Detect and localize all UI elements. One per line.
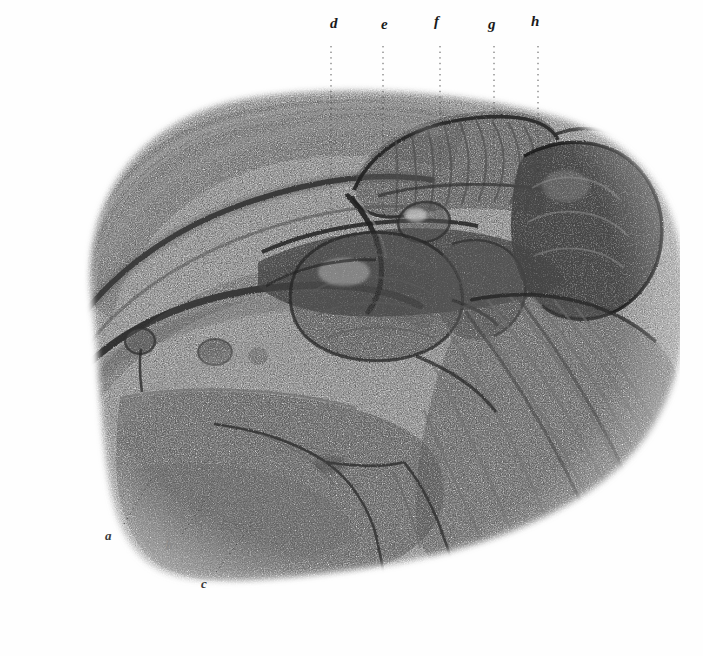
label-h: h bbox=[531, 14, 539, 29]
anatomical-figure bbox=[0, 0, 703, 656]
dark-gland-right bbox=[511, 142, 662, 319]
engraving-body bbox=[40, 70, 682, 600]
label-d: d bbox=[330, 16, 338, 31]
label-b: b bbox=[166, 539, 172, 551]
label-f: f bbox=[434, 14, 439, 29]
label-e: e bbox=[381, 17, 388, 32]
label-c: c bbox=[201, 577, 207, 590]
label-g: g bbox=[488, 17, 496, 32]
anatomical-plate: d e f g h a b c bbox=[0, 0, 703, 656]
label-a: a bbox=[105, 529, 112, 542]
